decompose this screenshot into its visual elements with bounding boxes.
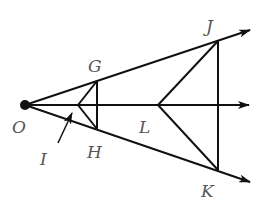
label-h: H bbox=[86, 142, 103, 162]
label-g: G bbox=[88, 56, 102, 76]
label-j: J bbox=[203, 16, 214, 36]
label-o: O bbox=[12, 117, 26, 137]
ray-lower bbox=[25, 105, 250, 182]
label-i: I bbox=[39, 149, 47, 169]
origin-point bbox=[20, 100, 30, 110]
geometry-diagram: O G H I L J K bbox=[0, 0, 261, 215]
ray-upper bbox=[25, 30, 250, 105]
label-l: L bbox=[138, 117, 150, 137]
label-k: K bbox=[200, 181, 215, 201]
